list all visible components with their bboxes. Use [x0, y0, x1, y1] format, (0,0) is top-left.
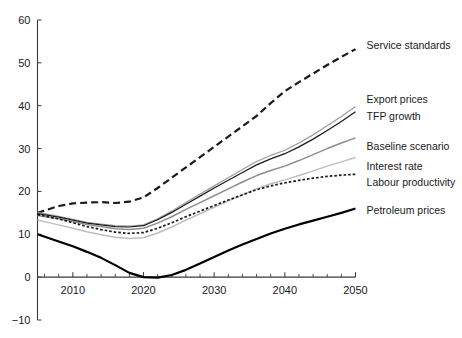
- y-tick-label: 50: [18, 57, 30, 69]
- y-tick-label: 60: [18, 14, 30, 26]
- y-axis-ticks: [38, 20, 42, 320]
- series-line-tfp-growth: [38, 112, 356, 227]
- series-line-petroleum-prices: [38, 209, 356, 278]
- x-axis-tick-labels: 20102020203020402050: [61, 284, 368, 296]
- series-label-interest-rate: Interest rate: [367, 160, 423, 172]
- series-label-petroleum-prices: Petroleum prices: [367, 204, 446, 216]
- y-tick-label: −10: [12, 314, 31, 326]
- series-line-export-prices: [38, 107, 356, 227]
- x-tick-label: 2020: [131, 284, 155, 296]
- y-axis-tick-labels: −100102030405060: [12, 14, 31, 326]
- x-tick-label: 2030: [202, 284, 226, 296]
- series-line-service-standards: [38, 49, 356, 213]
- series-label-service-standards: Service standards: [367, 39, 451, 51]
- y-tick-label: 20: [18, 185, 30, 197]
- series-labels-group: Service standardsExport pricesTFP growth…: [367, 39, 456, 216]
- series-label-labour-productivity: Labour productivity: [367, 176, 456, 188]
- line-chart: −100102030405060 20102020203020402050 Se…: [0, 0, 462, 338]
- series-label-baseline-scenario: Baseline scenario: [367, 140, 450, 152]
- series-label-export-prices: Export prices: [367, 93, 428, 105]
- y-tick-label: 10: [18, 228, 30, 240]
- y-tick-label: 40: [18, 100, 30, 112]
- y-tick-label: 30: [18, 143, 30, 155]
- series-label-tfp-growth: TFP growth: [367, 110, 421, 122]
- data-series-group: [38, 49, 356, 277]
- chart-container: −100102030405060 20102020203020402050 Se…: [0, 0, 462, 338]
- y-tick-label: 0: [24, 271, 30, 283]
- x-tick-label: 2050: [343, 284, 367, 296]
- x-tick-label: 2040: [273, 284, 297, 296]
- x-tick-label: 2010: [61, 284, 85, 296]
